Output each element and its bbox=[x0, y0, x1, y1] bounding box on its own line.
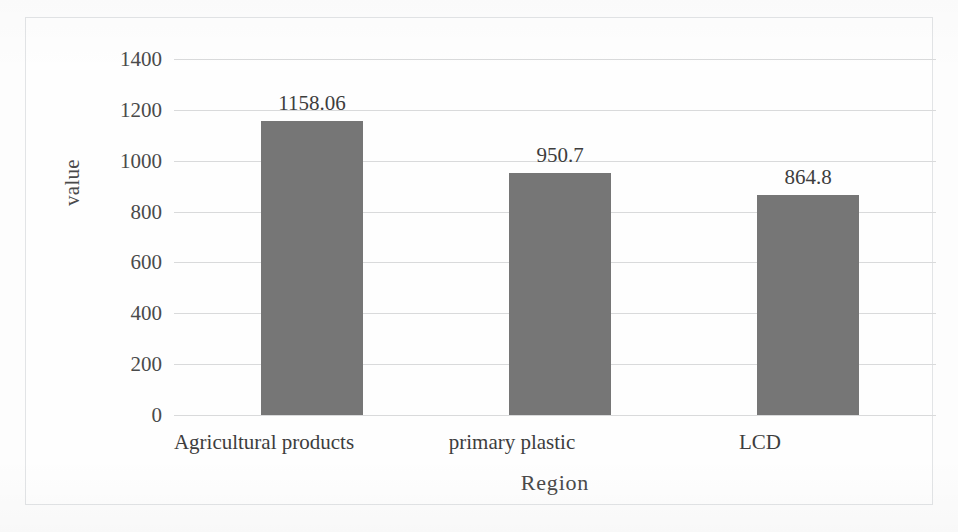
y-axis-tick-label: 400 bbox=[72, 303, 162, 324]
bar-value-label: 1158.06 bbox=[261, 93, 363, 114]
y-axis-tick-label: 600 bbox=[72, 252, 162, 273]
y-axis-tick-labels: 1400 1200 1000 800 600 400 200 0 bbox=[64, 59, 162, 415]
bar-lcd bbox=[757, 195, 859, 415]
x-axis-title: Region bbox=[174, 470, 936, 496]
y-axis-tick-label: 200 bbox=[72, 354, 162, 375]
x-axis-baseline bbox=[174, 415, 936, 416]
y-axis-tick-label: 1400 bbox=[72, 49, 162, 70]
x-axis-tick-label-lcd: LCD bbox=[630, 432, 890, 453]
y-axis-tick-label: 0 bbox=[72, 405, 162, 426]
plot-area: 1158.06 950.7 864.8 bbox=[174, 59, 936, 415]
chart-frame: value 1400 1200 1000 800 600 400 200 0 1 bbox=[25, 17, 933, 505]
gridline bbox=[174, 59, 936, 60]
x-axis-tick-label-primary-plastic: primary plastic bbox=[382, 432, 642, 453]
x-axis-tick-label-agricultural-products: Agricultural products bbox=[134, 432, 394, 453]
bar-primary-plastic bbox=[509, 173, 611, 415]
bar-value-label: 950.7 bbox=[509, 145, 611, 166]
bar-agricultural-products bbox=[261, 121, 363, 415]
y-axis-tick-label: 1000 bbox=[72, 150, 162, 171]
y-axis-tick-label: 1200 bbox=[72, 99, 162, 120]
chart-screenshot: value 1400 1200 1000 800 600 400 200 0 1 bbox=[0, 0, 958, 532]
y-axis-tick-label: 800 bbox=[72, 201, 162, 222]
bar-value-label: 864.8 bbox=[757, 167, 859, 188]
